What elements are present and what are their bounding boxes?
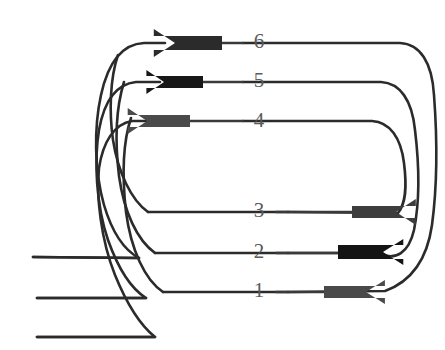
label-5: 5 [254, 68, 265, 92]
arrow-3-icon [352, 199, 416, 225]
left-curve-into-1 [124, 118, 163, 292]
label-2: 2 [254, 239, 265, 263]
path-group [33, 43, 436, 337]
label-4: 4 [254, 108, 265, 132]
label-6: 6 [254, 29, 265, 53]
diagram-canvas: 654321 [0, 0, 445, 350]
loop-4-to-3 [243, 121, 406, 213]
wire-loop-diagram: 654321 [0, 0, 445, 350]
label-3: 3 [254, 198, 265, 222]
free-end-upper [33, 257, 139, 258]
arrow-2-icon [338, 239, 403, 265]
label-1: 1 [254, 278, 265, 302]
arrow-group [128, 29, 416, 304]
loop-5-to-2 [243, 82, 418, 256]
label-group: 654321 [254, 29, 265, 302]
left-loop-6-to-tail-a [33, 43, 165, 258]
